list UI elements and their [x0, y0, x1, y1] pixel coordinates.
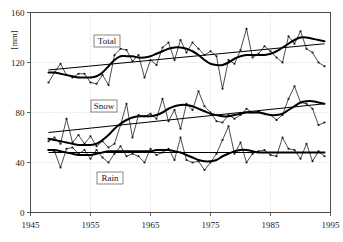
data-point [216, 55, 218, 57]
data-point [276, 155, 278, 157]
data-point [156, 118, 158, 120]
data-point [246, 108, 248, 110]
data-point [138, 54, 140, 56]
data-point [204, 105, 206, 107]
data-point [312, 108, 314, 110]
series-total [48, 28, 326, 90]
data-point [108, 147, 110, 149]
y-tick-160: 160 [11, 8, 25, 18]
data-point [228, 59, 230, 61]
data-point [246, 162, 248, 164]
data-point [294, 43, 296, 45]
y-tick-0: 0 [20, 208, 25, 218]
data-point [306, 48, 308, 50]
data-point [192, 162, 194, 164]
data-point [324, 122, 326, 124]
data-point [54, 137, 56, 139]
data-point [324, 65, 326, 67]
x-tick-1975: 1975 [202, 220, 221, 230]
data-point [84, 149, 86, 151]
data-point [138, 155, 140, 157]
data-point [156, 64, 158, 66]
data-point [150, 148, 152, 150]
data-point [180, 39, 182, 41]
data-point [228, 125, 230, 127]
data-point [312, 52, 314, 54]
raw-line-total [49, 29, 325, 89]
data-point [108, 162, 110, 164]
data-point [276, 57, 278, 59]
tick-marks [27, 13, 331, 217]
markers-rain [48, 125, 326, 171]
data-point [120, 48, 122, 50]
x-axis-tick-labels: 194519551965197519851995 [22, 220, 341, 230]
data-point [180, 128, 182, 130]
annotation-text-total: Total [98, 36, 117, 46]
data-point [288, 98, 290, 100]
data-point [90, 135, 92, 137]
data-point [132, 137, 134, 139]
data-point [234, 153, 236, 155]
series-rain [48, 125, 326, 171]
data-point [174, 59, 176, 61]
data-point [240, 49, 242, 51]
data-point [72, 147, 74, 149]
data-point [60, 167, 62, 169]
data-point [318, 62, 320, 64]
data-point [270, 50, 272, 52]
data-point [204, 169, 206, 171]
data-point [126, 49, 128, 51]
data-point [288, 148, 290, 150]
data-point [126, 103, 128, 105]
annotation-rain: Rain [97, 172, 123, 184]
annotation-snow: Snow [91, 100, 117, 112]
data-point [180, 137, 182, 139]
x-tick-1965: 1965 [142, 220, 161, 230]
data-point [48, 82, 50, 84]
data-point [294, 85, 296, 87]
data-point [78, 134, 80, 136]
data-point [294, 149, 296, 151]
data-point [312, 160, 314, 162]
data-point [264, 45, 266, 47]
y-tick-120: 120 [11, 58, 25, 68]
data-point [198, 90, 200, 92]
series-snow [48, 85, 326, 148]
annotation-text-rain: Rain [102, 173, 119, 183]
x-tick-1955: 1955 [82, 220, 101, 230]
data-point [288, 35, 290, 37]
data-point [60, 63, 62, 65]
data-point [216, 120, 218, 122]
annotation-total: Total [94, 35, 120, 47]
data-point [282, 62, 284, 64]
data-point [102, 157, 104, 159]
data-point [66, 118, 68, 120]
data-point [90, 158, 92, 160]
data-point [198, 48, 200, 50]
data-point [186, 159, 188, 161]
data-point [252, 153, 254, 155]
series-layer [48, 28, 326, 171]
data-point [150, 113, 152, 115]
data-point [90, 82, 92, 84]
data-point [192, 109, 194, 111]
data-point [300, 158, 302, 160]
x-tick-1945: 1945 [22, 220, 41, 230]
x-tick-1995: 1995 [322, 220, 341, 230]
data-point [300, 30, 302, 32]
data-point [192, 42, 194, 44]
data-point [66, 148, 68, 150]
data-point [114, 153, 116, 155]
data-point [234, 118, 236, 120]
data-point [108, 84, 110, 86]
data-point [60, 143, 62, 145]
data-point [132, 153, 134, 155]
y-tick-40: 40 [16, 158, 26, 168]
data-point [162, 98, 164, 100]
data-point [162, 47, 164, 49]
data-point [240, 142, 242, 144]
data-point [120, 145, 122, 147]
data-point [222, 139, 224, 141]
y-axis-title: [mm] [9, 30, 19, 49]
data-point [168, 120, 170, 122]
